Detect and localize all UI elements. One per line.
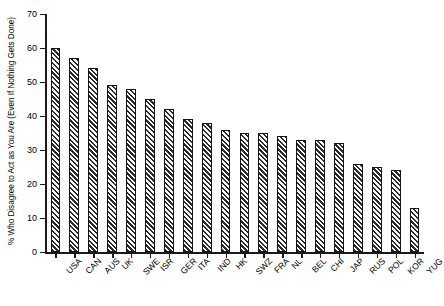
bar — [51, 48, 61, 252]
y-axis-tick-label: 40 — [27, 111, 37, 121]
y-axis-label: % Who Disagree to Act as You Are (Even I… — [7, 17, 16, 245]
x-axis-tick-label: ITA — [195, 256, 211, 272]
y-axis-tick-label: 60 — [27, 43, 37, 53]
x-axis-tick-label: NL — [289, 256, 304, 271]
y-axis-tick: 70 — [40, 14, 45, 15]
x-axis-tick-label: UK — [120, 256, 136, 272]
x-axis-tick-label: SWZ — [254, 256, 275, 277]
bar — [315, 140, 325, 252]
y-axis-tick: 20 — [40, 184, 45, 185]
x-axis-tick-label: CHI — [328, 256, 346, 274]
bar — [107, 85, 117, 252]
y-axis-tick-label: 70 — [27, 9, 37, 19]
bar — [410, 208, 420, 252]
x-axis-tick-label: BEL — [310, 256, 329, 275]
x-axis-tick-label: FRA — [272, 256, 291, 275]
x-axis-tick-label: JAP — [348, 256, 366, 274]
bars-container — [46, 14, 424, 253]
x-axis-tick-label: ISR — [158, 256, 175, 273]
y-axis-tick: 50 — [40, 82, 45, 83]
y-axis-tick: 10 — [40, 218, 45, 219]
bar — [258, 133, 268, 252]
x-axis-tick-label: GER — [178, 256, 198, 276]
y-axis-tick-label: 30 — [27, 145, 37, 155]
bar — [277, 136, 287, 252]
bar — [202, 123, 212, 252]
x-axis-tick-label: USA — [65, 256, 85, 276]
plot-area: 010203040506070 — [46, 14, 424, 254]
y-axis-tick-label: 0 — [32, 247, 37, 257]
y-axis-tick-label: 50 — [27, 77, 37, 87]
bar — [183, 119, 193, 252]
bar — [334, 143, 344, 252]
x-axis-tick-label: YUG — [424, 256, 444, 276]
y-axis-tick: 30 — [40, 150, 45, 151]
y-axis-label-container: % Who Disagree to Act as You Are (Even I… — [0, 0, 22, 262]
bar — [88, 68, 98, 252]
x-axis-tick-label: HK — [233, 256, 249, 272]
x-axis-labels: USACANAUSUKSWEISRGERITAINDHKSWZFRANLBELC… — [46, 256, 424, 302]
x-axis-tick-label: POL — [386, 256, 405, 275]
bar — [240, 133, 250, 252]
x-axis-tick-label: IND — [215, 256, 233, 274]
bar — [126, 89, 136, 252]
bar — [391, 170, 401, 252]
x-axis-tick-label: AUS — [102, 256, 122, 276]
y-axis-tick: 40 — [40, 116, 45, 117]
bar — [164, 109, 174, 252]
x-axis-tick-label: CAN — [84, 256, 104, 276]
bar — [145, 99, 155, 252]
bar — [372, 167, 382, 252]
y-axis-tick: 0 — [40, 252, 45, 253]
y-axis-tick-label: 10 — [27, 213, 37, 223]
bar — [296, 140, 306, 252]
x-axis-tick-label: RUS — [367, 256, 387, 276]
bar — [221, 130, 231, 252]
bar — [69, 58, 79, 252]
bar — [353, 164, 363, 252]
x-axis-tick-label: KOR — [405, 256, 425, 276]
y-axis-tick: 60 — [40, 48, 45, 49]
y-axis-tick-label: 20 — [27, 179, 37, 189]
